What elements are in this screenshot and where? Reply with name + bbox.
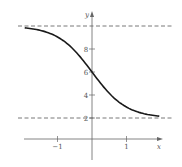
y-tick-label: 4	[84, 92, 89, 100]
x-axis-arrow-icon	[157, 137, 163, 141]
y-tick-label: 2	[84, 115, 88, 123]
x-axis-label: x	[157, 143, 161, 151]
y-axis-arrow-icon	[90, 11, 94, 17]
y-axis-label: y	[84, 11, 90, 19]
y-tick-label: 6	[84, 69, 89, 77]
logistic-curve-chart: x y −112468	[0, 0, 182, 167]
x-tick-label: 1	[124, 143, 128, 151]
y-tick-label: 8	[84, 46, 88, 54]
axes: x y	[24, 11, 163, 160]
tick-marks: −112468	[52, 46, 128, 152]
x-tick-label: −1	[52, 143, 62, 151]
